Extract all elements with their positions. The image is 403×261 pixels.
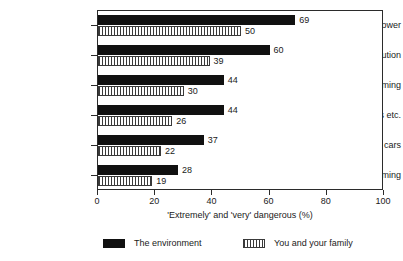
x-axis-tick-label: 0 bbox=[77, 196, 117, 207]
bar-group: 4430 bbox=[98, 71, 382, 101]
bar-environment bbox=[98, 45, 270, 55]
x-axis-tick-label: 40 bbox=[191, 196, 231, 207]
bar-environment bbox=[98, 135, 204, 145]
bar-environment bbox=[98, 15, 295, 25]
bar-value-label: 50 bbox=[245, 26, 255, 36]
bar-group: 6039 bbox=[98, 41, 382, 71]
legend-item-environment: The environment bbox=[103, 236, 202, 250]
bar-row: 26 bbox=[98, 116, 382, 126]
bar-environment bbox=[98, 75, 224, 85]
x-axis-tick-label: 20 bbox=[134, 196, 174, 207]
bar-value-label: 37 bbox=[208, 135, 218, 145]
bar-group: 3722 bbox=[98, 131, 382, 161]
bar-family bbox=[98, 86, 184, 96]
legend-item-family: You and your family bbox=[243, 236, 353, 250]
bar-value-label: 69 bbox=[299, 15, 309, 25]
x-axis-tick-label: 80 bbox=[306, 196, 346, 207]
bar-family bbox=[98, 56, 210, 66]
legend-label-environment: The environment bbox=[134, 238, 202, 249]
x-axis-tick bbox=[383, 190, 384, 195]
bar-row: 28 bbox=[98, 165, 382, 175]
legend-label-family: You and your family bbox=[274, 238, 353, 249]
bar-row: 22 bbox=[98, 146, 382, 156]
bar-row: 39 bbox=[98, 56, 382, 66]
legend-swatch-environment bbox=[103, 239, 125, 248]
bar-family bbox=[98, 26, 241, 36]
bar-environment bbox=[98, 165, 178, 175]
bar-row: 50 bbox=[98, 26, 382, 36]
plot-area: 695060394430442637222819 bbox=[97, 10, 383, 190]
bar-group: 2819 bbox=[98, 161, 382, 191]
bar-value-label: 30 bbox=[188, 86, 198, 96]
bar-row: 44 bbox=[98, 105, 382, 115]
legend-swatch-family bbox=[243, 239, 265, 248]
bar-value-label: 26 bbox=[176, 116, 186, 126]
bar-group: 4426 bbox=[98, 101, 382, 131]
bar-value-label: 44 bbox=[228, 75, 238, 85]
bar-row: 30 bbox=[98, 86, 382, 96]
bar-value-label: 28 bbox=[182, 165, 192, 175]
bar-value-label: 19 bbox=[156, 176, 166, 186]
bar-family bbox=[98, 146, 161, 156]
bar-row: 19 bbox=[98, 176, 382, 186]
bar-family bbox=[98, 116, 172, 126]
bar-row: 69 bbox=[98, 15, 382, 25]
x-axis-tick bbox=[97, 190, 98, 195]
bar-row: 44 bbox=[98, 75, 382, 85]
x-axis-tick-label: 60 bbox=[249, 196, 289, 207]
bar-row: 37 bbox=[98, 135, 382, 145]
bar-value-label: 60 bbox=[274, 45, 284, 55]
bar-row: 60 bbox=[98, 45, 382, 55]
bar-value-label: 22 bbox=[165, 146, 175, 156]
bar-value-label: 39 bbox=[214, 56, 224, 66]
bar-family bbox=[98, 176, 152, 186]
bar-environment bbox=[98, 105, 224, 115]
bar-group: 6950 bbox=[98, 11, 382, 41]
x-axis-tick bbox=[211, 190, 212, 195]
x-axis-title: 'Extremely' and 'very' dangerous (%) bbox=[97, 209, 383, 221]
x-axis-tick bbox=[154, 190, 155, 195]
x-axis-tick bbox=[269, 190, 270, 195]
x-axis-tick-label: 100 bbox=[363, 196, 403, 207]
x-axis-tick bbox=[326, 190, 327, 195]
bar-value-label: 44 bbox=[228, 105, 238, 115]
chart-legend: The environment You and your family bbox=[0, 236, 401, 252]
